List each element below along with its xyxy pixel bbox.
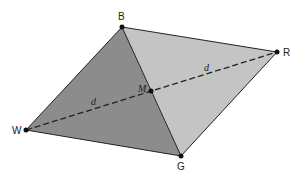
point-B xyxy=(120,25,125,30)
label-B: B xyxy=(118,11,125,22)
label-G: G xyxy=(177,161,185,172)
point-M xyxy=(149,89,154,94)
point-G xyxy=(179,154,184,159)
label-W: W xyxy=(12,125,22,136)
label-R: R xyxy=(283,47,290,58)
label-M: M xyxy=(137,83,147,94)
point-W xyxy=(24,128,29,133)
rhombus-diagram: B R G W M d d xyxy=(0,0,301,176)
point-R xyxy=(275,50,280,55)
